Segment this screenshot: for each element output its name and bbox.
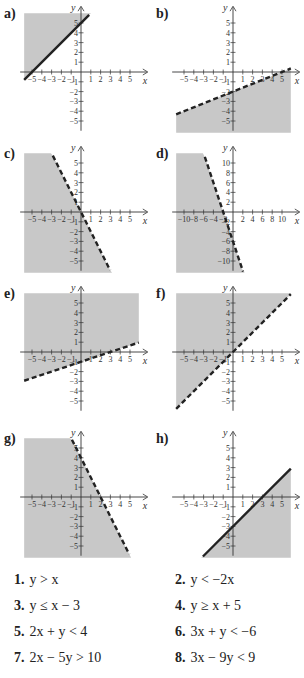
- y-tick-label: −5: [221, 397, 230, 406]
- y-tick-label: −1: [221, 503, 230, 512]
- y-tick-label: 5: [74, 159, 78, 168]
- y-tick-label: 4: [74, 169, 78, 178]
- x-tick-label: −3: [199, 355, 208, 364]
- y-tick-label: −2: [69, 88, 78, 97]
- equation-item: 6.3x + y < −6: [175, 624, 256, 640]
- x-tick-label: 3: [108, 500, 112, 509]
- x-tick-label: −3: [47, 355, 56, 364]
- y-tick-label: −4: [69, 107, 78, 116]
- panel-c: c) xy−5−4−3−2−11234554321−1−2−3−4−5: [0, 140, 152, 280]
- x-tick-label: −4: [190, 75, 199, 84]
- x-tick-label: 3: [108, 75, 112, 84]
- x-tick-label: −4: [209, 215, 218, 224]
- y-tick-label: −6: [221, 237, 230, 246]
- equation-expr: 3x − 9y < 9: [191, 650, 256, 665]
- y-tick-label: 1: [226, 338, 230, 347]
- y-tick-label: 5: [226, 444, 230, 453]
- x-tick-label: 6: [260, 215, 264, 224]
- y-tick-label: 1: [74, 483, 78, 492]
- x-tick-label: −3: [47, 75, 56, 84]
- y-tick-label: −5: [69, 397, 78, 406]
- x-tick-label: 5: [128, 215, 132, 224]
- y-tick-label: −4: [69, 387, 78, 396]
- x-tick-label: 2: [99, 75, 103, 84]
- x-tick-label: 5: [280, 355, 284, 364]
- x-tick-label: 3: [260, 500, 264, 509]
- x-tick-label: −5: [180, 355, 189, 364]
- x-tick-label: 3: [108, 355, 112, 364]
- y-tick-label: −5: [69, 117, 78, 126]
- x-axis-label: x: [294, 215, 300, 226]
- x-axis-label: x: [142, 75, 148, 86]
- y-tick-label: −2: [69, 513, 78, 522]
- y-tick-label: 3: [74, 179, 78, 188]
- y-tick-label: −5: [221, 542, 230, 551]
- x-tick-label: −5: [28, 500, 37, 509]
- y-axis-label: y: [222, 282, 228, 293]
- x-tick-label: 1: [89, 500, 93, 509]
- x-axis-label: x: [294, 75, 300, 86]
- y-tick-label: −3: [221, 97, 230, 106]
- y-tick-label: −2: [69, 368, 78, 377]
- y-tick-label: 3: [74, 464, 78, 473]
- y-axis-label: y: [70, 2, 76, 13]
- y-tick-label: −2: [221, 368, 230, 377]
- x-tick-label: −5: [180, 75, 189, 84]
- y-tick-label: −5: [69, 257, 78, 266]
- x-tick-label: −2: [57, 355, 66, 364]
- y-tick-label: 1: [74, 58, 78, 67]
- y-axis-label: y: [222, 427, 228, 438]
- x-tick-label: 4: [251, 215, 255, 224]
- equation-item: 3.y ≤ x − 3: [14, 598, 80, 614]
- x-tick-label: 5: [280, 500, 284, 509]
- x-tick-label: 5: [128, 75, 132, 84]
- x-tick-label: 3: [260, 355, 264, 364]
- graph-b: xy−5−4−3−2−11234554321−1−2−3−4−5: [152, 0, 304, 140]
- y-tick-label: −1: [69, 503, 78, 512]
- y-axis-label: y: [70, 427, 76, 438]
- y-tick-label: 4: [226, 188, 230, 197]
- y-tick-label: 4: [74, 309, 78, 318]
- equation-expr: y > x: [30, 572, 59, 587]
- y-tick-label: 4: [226, 29, 230, 38]
- x-tick-label: −3: [47, 500, 56, 509]
- x-tick-label: 4: [270, 355, 274, 364]
- y-tick-label: 2: [226, 48, 230, 57]
- y-tick-label: −3: [69, 377, 78, 386]
- y-axis-label: y: [70, 142, 76, 153]
- equation-expr: 3x + y < −6: [191, 624, 257, 639]
- x-axis-label: x: [142, 500, 148, 511]
- x-tick-label: −8: [190, 215, 199, 224]
- x-tick-label: −10: [178, 215, 191, 224]
- equation-number: 7.: [14, 650, 25, 665]
- equation-number: 4.: [175, 598, 186, 613]
- y-tick-label: 2: [226, 473, 230, 482]
- y-tick-label: 6: [226, 179, 230, 188]
- y-tick-label: 2: [226, 328, 230, 337]
- y-tick-label: −4: [221, 387, 230, 396]
- x-tick-label: 2: [241, 215, 245, 224]
- equation-item: 5.2x + y < 4: [14, 624, 87, 640]
- x-tick-label: 4: [118, 75, 122, 84]
- shaded-region: [176, 153, 291, 273]
- y-tick-label: 2: [74, 328, 78, 337]
- equation-number: 3.: [14, 598, 25, 613]
- x-tick-label: 4: [118, 355, 122, 364]
- x-tick-label: 4: [118, 500, 122, 509]
- y-tick-label: −3: [69, 522, 78, 531]
- y-tick-label: 2: [74, 473, 78, 482]
- equation-expr: y ≥ x + 5: [191, 598, 242, 613]
- y-tick-label: 5: [226, 299, 230, 308]
- x-axis-label: x: [294, 500, 300, 511]
- y-tick-label: 5: [226, 19, 230, 28]
- equation-expr: y ≤ x − 3: [30, 598, 81, 613]
- x-tick-label: 2: [251, 355, 255, 364]
- x-axis-label: x: [142, 355, 148, 366]
- x-tick-label: −2: [57, 500, 66, 509]
- y-tick-label: 8: [226, 169, 230, 178]
- panel-d: d) xy−10−8−6−4−2246810108642−2−4−6−8−10: [152, 140, 304, 280]
- graph-e: xy−5−4−3−2−11234554321−1−2−3−4−5: [0, 280, 152, 420]
- equation-number: 1.: [14, 572, 25, 587]
- equation-item: 1.y > x: [14, 572, 58, 588]
- x-tick-label: 5: [280, 75, 284, 84]
